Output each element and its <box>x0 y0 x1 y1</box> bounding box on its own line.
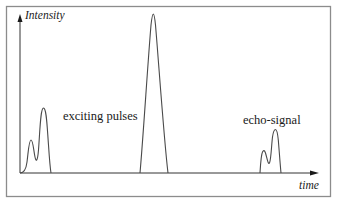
echo-signal-label: echo-signal <box>243 114 301 127</box>
echo-signal-curve <box>260 130 281 174</box>
exciting-pulses-curve <box>20 108 51 173</box>
central-pulse-curve <box>140 14 168 173</box>
x-axis-arrow-icon <box>310 171 319 176</box>
y-axis-label: Intensity <box>25 10 65 22</box>
y-axis-arrow-icon <box>18 14 23 22</box>
pulse-echo-diagram <box>0 0 337 206</box>
diagram-frame <box>7 7 331 197</box>
x-axis-label: time <box>299 180 319 192</box>
exciting-pulses-label: exciting pulses <box>63 110 138 123</box>
